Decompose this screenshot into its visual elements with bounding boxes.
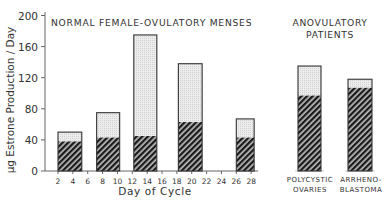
x-tick-label: 6 — [85, 177, 90, 186]
y-tick-label: 0 — [31, 165, 38, 177]
bar-segment-stippled — [97, 113, 120, 138]
category-label-arrhenoblastoma-line2: BLASTOMA — [340, 186, 383, 194]
bar-segment-hatched — [298, 96, 321, 171]
x-tick-label: 22 — [202, 177, 212, 186]
y-tick-label: 160 — [18, 41, 38, 53]
bar-segment-hatched — [178, 122, 202, 171]
x-tick-label: 2 — [56, 177, 61, 186]
y-axis: 04080120160200 — [18, 10, 45, 178]
x-axis-label: Day of Cycle — [118, 185, 191, 197]
x-axis: 246810121416182022242628 — [45, 171, 258, 186]
group-title-anovulatory-line2: PATIENTS — [306, 29, 354, 40]
group-title-normal: NORMAL FEMALE-OVULATORY MENSES — [51, 17, 252, 28]
y-tick-label: 80 — [25, 103, 38, 115]
bar-segment-stippled — [134, 35, 157, 136]
bar-segment-stippled — [236, 119, 254, 138]
y-tick-label: 120 — [18, 72, 38, 84]
y-tick-label: 40 — [25, 134, 38, 146]
bar-segment-hatched — [97, 138, 120, 171]
bar-normal-4 — [178, 64, 202, 171]
y-tick-label: 200 — [18, 10, 38, 22]
x-tick-label: 24 — [217, 177, 227, 186]
category-label-polycystic-line2: OVARIES — [293, 186, 327, 194]
group-title-anovulatory-line1: ANOVULATORY — [293, 17, 368, 28]
bar-segment-stippled — [348, 79, 372, 88]
x-tick-label: 8 — [100, 177, 105, 186]
bar-segment-stippled — [58, 132, 82, 141]
bar-segment-hatched — [134, 136, 157, 171]
estrone-production-chart: 04080120160200 246810121416182022242628 … — [0, 0, 390, 202]
bar-arrhenoblastoma — [348, 79, 372, 171]
bar-normal-5 — [236, 119, 254, 171]
bar-normal-1 — [58, 132, 82, 171]
bar-segment-stippled — [298, 66, 321, 96]
bar-segment-stippled — [178, 64, 202, 122]
category-label-polycystic-line1: POLYCYSTIC — [287, 176, 333, 184]
bar-segment-hatched — [348, 88, 372, 171]
bar-segment-hatched — [236, 138, 254, 171]
y-axis-label: μg Estrone Production / Day — [4, 27, 16, 174]
bar-normal-2 — [97, 113, 120, 171]
bar-normal-3 — [134, 35, 157, 171]
x-tick-label: 26 — [232, 177, 242, 186]
bar-polycystic-ovaries — [298, 66, 321, 171]
bar-segment-hatched — [58, 141, 82, 171]
x-tick-label: 4 — [70, 177, 75, 186]
bar-group — [58, 35, 375, 171]
x-tick-label: 28 — [246, 177, 256, 186]
category-label-arrhenoblastoma-line1: ARRHENO- — [340, 176, 382, 184]
